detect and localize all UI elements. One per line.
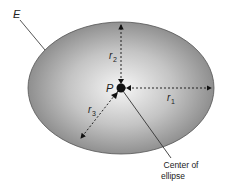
svg-text:ellipse: ellipse [161, 171, 185, 181]
center-point [117, 84, 126, 93]
ellipse-label-leader [20, 20, 45, 50]
svg-text:1: 1 [171, 98, 175, 105]
ellipse-diagram: E P r 2 r 1 r 3 Center of ellipse [0, 0, 237, 191]
center-callout-label: Center of ellipse [161, 160, 199, 181]
ellipse-label: E [13, 8, 21, 20]
svg-text:2: 2 [113, 56, 117, 63]
svg-text:Center of: Center of [164, 160, 200, 170]
svg-text:3: 3 [92, 110, 96, 117]
point-label: P [106, 82, 114, 94]
